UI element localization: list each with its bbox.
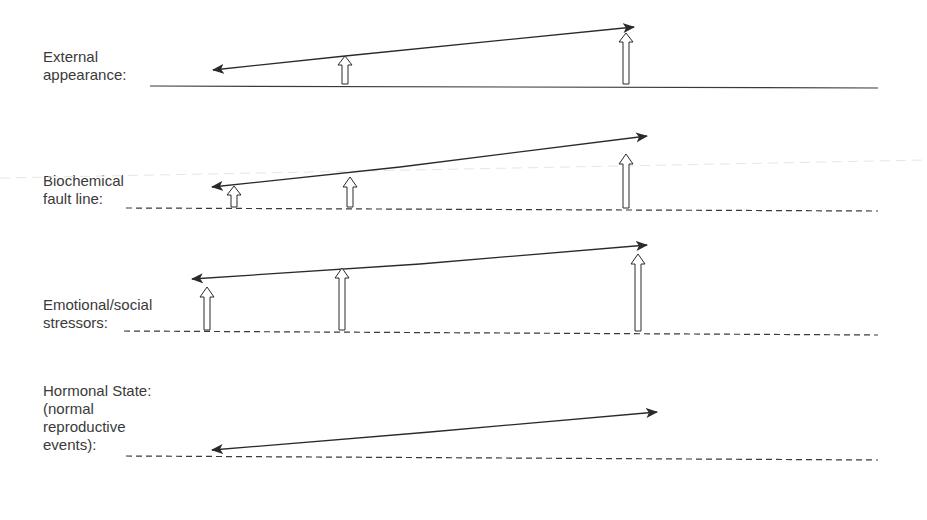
baseline-emotional xyxy=(124,331,878,335)
up-arrow-icon xyxy=(335,268,349,330)
bidirectional-arrow-hormonal xyxy=(212,412,657,450)
bidirectional-arrow-emotional xyxy=(192,245,647,279)
up-arrow-icon xyxy=(619,154,633,208)
up-arrow-icon xyxy=(227,186,241,207)
baseline-hormonal xyxy=(126,456,878,460)
diagram-canvas xyxy=(0,0,927,520)
background-artifact-line xyxy=(0,160,927,178)
baseline-external xyxy=(150,86,878,88)
up-arrow-icon xyxy=(631,254,645,331)
bidirectional-arrow-biochemical xyxy=(212,136,647,187)
baseline-biochemical xyxy=(126,208,878,211)
bidirectional-arrow-external xyxy=(213,27,634,70)
up-arrow-icon xyxy=(343,177,357,207)
up-arrow-icon xyxy=(200,287,214,330)
up-arrow-icon xyxy=(338,56,352,84)
up-arrow-icon xyxy=(619,33,633,84)
